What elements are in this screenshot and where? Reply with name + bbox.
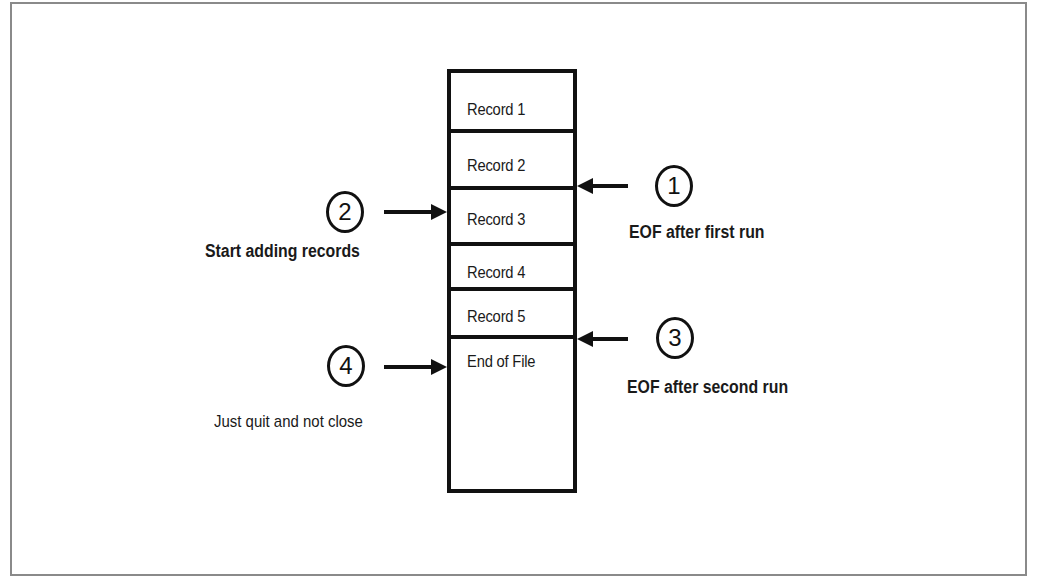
arrows-layer — [0, 0, 1040, 580]
marker-4-number: 4 — [339, 352, 352, 380]
marker-1-number: 1 — [667, 172, 680, 200]
marker-4-caption: Just quit and not close — [214, 412, 363, 432]
marker-2-circle: 2 — [326, 191, 364, 233]
marker-3-caption: EOF after second run — [627, 377, 788, 398]
marker-1-caption: EOF after first run — [629, 222, 765, 243]
marker-3-circle: 3 — [656, 317, 694, 359]
arrow-4-icon — [384, 359, 447, 375]
marker-2-caption: Start adding records — [205, 241, 360, 262]
arrow-1-icon — [577, 178, 628, 194]
marker-4-circle: 4 — [327, 345, 365, 387]
marker-2-number: 2 — [338, 198, 351, 226]
marker-3-number: 3 — [668, 324, 681, 352]
arrow-2-icon — [384, 204, 447, 220]
marker-1-circle: 1 — [655, 165, 693, 207]
arrow-3-icon — [577, 331, 628, 347]
